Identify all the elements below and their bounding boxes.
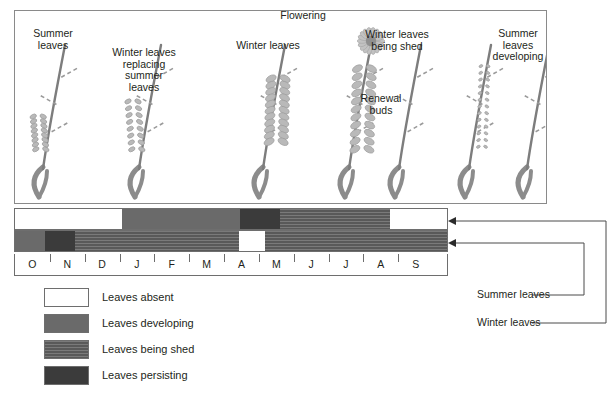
- legend-label: Leaves developing: [102, 314, 194, 333]
- winter-leaves-stage: [254, 45, 297, 197]
- month-label: J: [120, 254, 155, 274]
- legend-swatch: [44, 314, 89, 333]
- bar-segment: [240, 209, 280, 229]
- legend-swatch: [44, 288, 89, 307]
- illustration-caption: Summer leaves: [18, 28, 88, 51]
- month-tick: [224, 254, 225, 262]
- illustration-caption: Winter leaves being shed: [356, 29, 438, 52]
- summer-leaves-stage: [29, 45, 77, 197]
- month-axis: ONDJFMAMJJAS: [14, 254, 448, 276]
- winter-leaves-shed-stage: [390, 45, 433, 197]
- bar-segment: [239, 231, 265, 251]
- illustration-caption: Winter leaves replacing summer leaves: [104, 47, 184, 93]
- month-label: S: [398, 254, 433, 274]
- summer-leaves-bar: [14, 208, 448, 230]
- bar-segment: [390, 209, 447, 229]
- illustration-caption: Renewal buds: [355, 93, 407, 116]
- month-tick: [398, 254, 399, 262]
- month-label: N: [50, 254, 85, 274]
- month-label: J: [294, 254, 329, 274]
- month-label: J: [329, 254, 364, 274]
- month-tick: [85, 254, 86, 262]
- legend-label: Leaves absent: [102, 288, 174, 307]
- month-label: M: [259, 254, 294, 274]
- bar-segment: [15, 231, 45, 251]
- month-label: A: [224, 254, 259, 274]
- legend-label: Leaves persisting: [102, 366, 188, 385]
- month-label: A: [363, 254, 398, 274]
- bar-segment: [15, 209, 122, 229]
- bar-segment: [280, 209, 390, 229]
- month-tick: [50, 254, 51, 262]
- legend-swatch: [44, 366, 89, 385]
- month-tick: [189, 254, 190, 262]
- month-label: O: [15, 254, 50, 274]
- month-tick: [154, 254, 155, 262]
- month-label: D: [85, 254, 120, 274]
- month-tick: [363, 254, 364, 262]
- month-tick: [120, 254, 121, 262]
- month-label: F: [154, 254, 189, 274]
- bar-segment: [265, 231, 447, 251]
- month-label: M: [189, 254, 224, 274]
- illustration-caption: Flowering: [272, 10, 334, 22]
- bar-segment: [75, 231, 239, 251]
- legend-swatch: [44, 340, 89, 359]
- bare-stage: [518, 45, 546, 197]
- month-tick: [259, 254, 260, 262]
- winter-leaves-bar: [14, 230, 448, 252]
- legend-label: Leaves being shed: [102, 340, 194, 359]
- month-tick: [294, 254, 295, 262]
- bar-segment: [45, 231, 74, 251]
- illustration-caption: Winter leaves: [228, 40, 308, 52]
- summer-leaves-developing-stage: [460, 45, 503, 197]
- illustration-caption: Summer leaves developing: [487, 28, 549, 63]
- callout-label-winter-leaves: Winter leaves: [477, 316, 541, 328]
- phenology-bars: [14, 208, 448, 254]
- callout-label-summer-leaves: Summer leaves: [477, 288, 550, 300]
- bar-segment: [122, 209, 240, 229]
- month-tick: [329, 254, 330, 262]
